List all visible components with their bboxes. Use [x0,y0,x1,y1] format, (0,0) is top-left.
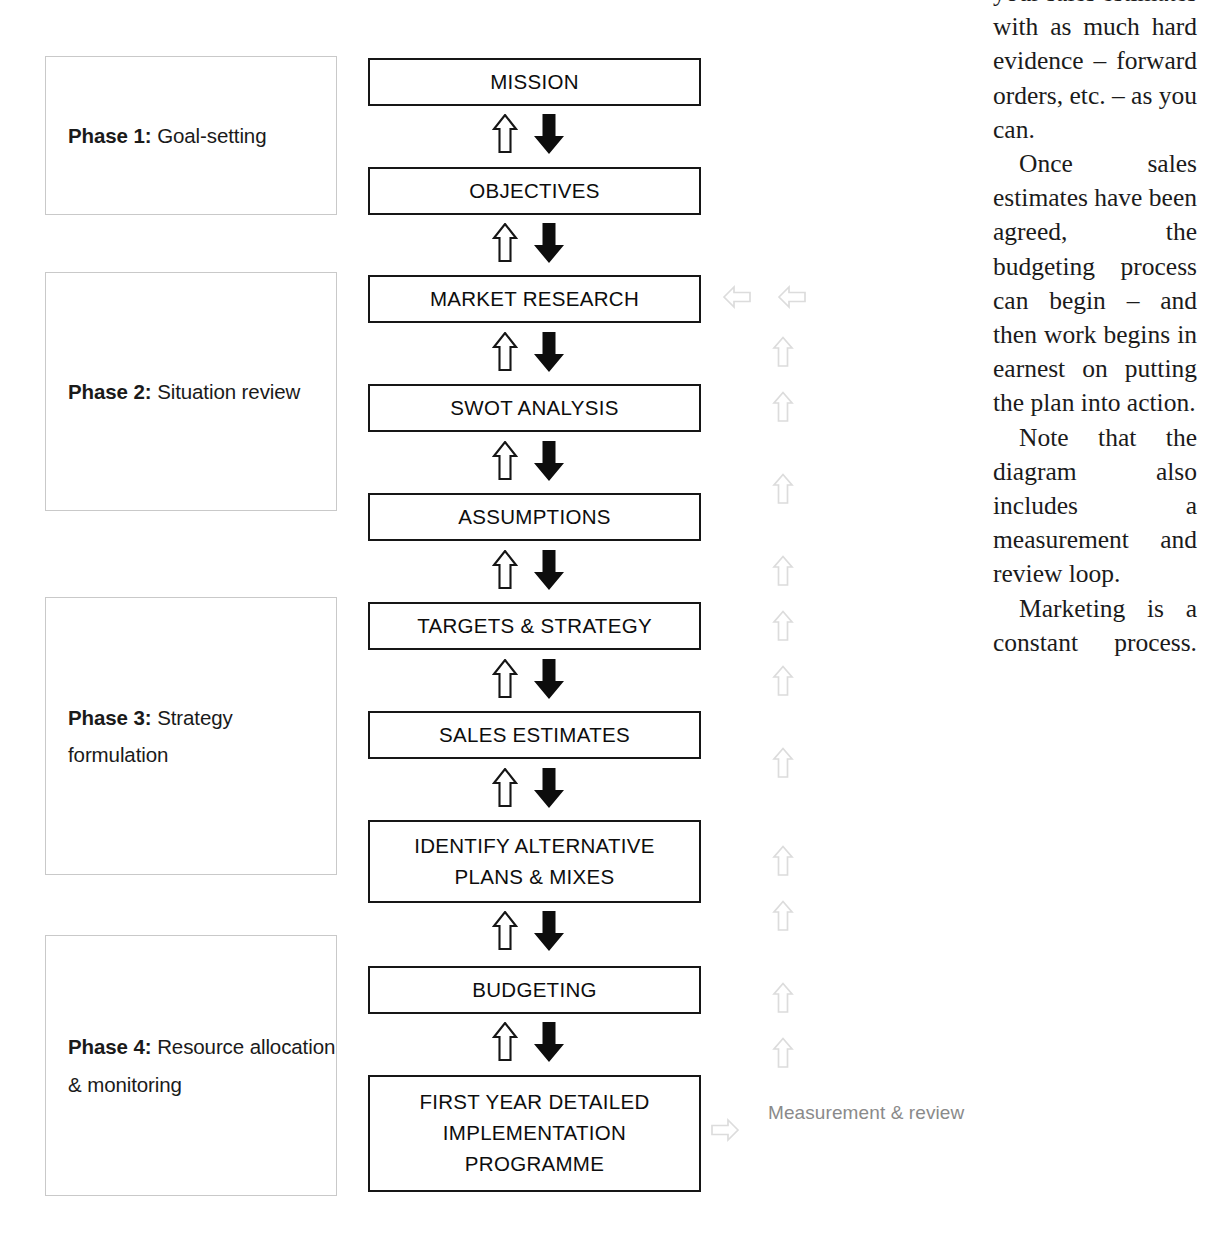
flow-step-label: IDENTIFY ALTERNATIVE PLANS & MIXES [414,831,655,893]
connector-pair [368,330,701,374]
flow-step-label: MISSION [490,67,579,98]
body-paragraph: Note that the diagram also includes a me… [993,421,1197,592]
phase-box-2: Phase 2: Situation review [45,272,337,511]
connector-pair [368,548,701,592]
arrow-left-outline-icon [777,284,807,310]
flow-step-mission: MISSION [368,58,701,106]
arrow-down-solid-icon [531,1020,567,1064]
phase-label-3: Phase 3: Strategy formulation [46,699,336,774]
arrow-up-outline-icon [492,911,518,951]
arrow-up-outline-gray-icon [772,610,794,642]
connector-pair [368,909,701,953]
body-paragraph: Marketing is a constant process. [993,592,1197,695]
flow-step-label: SWOT ANALYSIS [450,393,618,424]
arrow-down-solid-icon [531,221,567,265]
flow-step-budgeting: BUDGETING [368,966,701,1014]
phase-name-2: Situation review [152,380,301,403]
arrow-up-outline-icon [492,223,518,263]
connector-pair [368,657,701,701]
phase-box-4: Phase 4: Resource allocation & monitorin… [45,935,337,1196]
phase-number-3: Phase 3: [68,706,152,729]
arrow-down-solid-icon [531,657,567,701]
flow-step-label: ASSUMPTIONS [458,502,611,533]
arrow-left-outline-icon [722,284,752,310]
arrow-up-outline-icon [492,768,518,808]
flow-step-label: FIRST YEAR DETAILED IMPLEMENTATION PROGR… [419,1087,649,1179]
body-paragraph: your sales estimates with as much hard e… [993,0,1197,147]
arrow-up-outline-gray-icon [772,900,794,932]
arrow-down-solid-icon [531,112,567,156]
arrow-down-solid-icon [531,909,567,953]
arrow-up-outline-gray-icon [772,1037,794,1069]
arrow-up-outline-gray-icon [772,747,794,779]
connector-pair [368,439,701,483]
arrow-up-outline-gray-icon [772,665,794,697]
flow-step-label: BUDGETING [472,975,597,1006]
body-text-column: your sales estimates with as much hard e… [993,0,1197,694]
phase-number-4: Phase 4: [68,1035,152,1058]
arrow-up-outline-gray-icon [772,391,794,423]
phase-label-4: Phase 4: Resource allocation & monitorin… [46,1028,336,1103]
connector-pair [368,766,701,810]
measurement-review-caption: Measurement & review [768,1098,968,1129]
arrow-down-solid-icon [531,439,567,483]
arrow-down-solid-icon [531,330,567,374]
flow-step-label: SALES ESTIMATES [439,720,630,751]
arrow-up-outline-gray-icon [772,555,794,587]
arrow-up-outline-icon [492,659,518,699]
arrow-up-outline-icon [492,441,518,481]
phase-box-1: Phase 1: Goal-setting [45,56,337,215]
flow-step-assumptions: ASSUMPTIONS [368,493,701,541]
phase-number-2: Phase 2: [68,380,152,403]
arrow-up-outline-icon [492,1022,518,1062]
arrow-up-outline-icon [492,332,518,372]
arrow-up-outline-gray-icon [772,845,794,877]
connector-pair [368,221,701,265]
flow-step-label: TARGETS & STRATEGY [417,611,652,642]
arrow-up-outline-icon [492,550,518,590]
connector-pair [368,112,701,156]
flow-step-market-research: MARKET RESEARCH [368,275,701,323]
flow-step-swot-analysis: SWOT ANALYSIS [368,384,701,432]
arrow-up-outline-gray-icon [772,982,794,1014]
arrow-right-outline-gray-icon [710,1117,740,1143]
phase-label-2: Phase 2: Situation review [46,373,300,410]
flow-step-objectives: OBJECTIVES [368,167,701,215]
flow-step-label: OBJECTIVES [469,176,600,207]
phase-label-1: Phase 1: Goal-setting [46,117,266,154]
phase-box-3: Phase 3: Strategy formulation [45,597,337,875]
arrow-up-outline-gray-icon [772,473,794,505]
flow-step-first-year-implementation: FIRST YEAR DETAILED IMPLEMENTATION PROGR… [368,1075,701,1192]
body-paragraph: Once sales estimates have been agreed, t… [993,147,1197,421]
flow-step-label: MARKET RESEARCH [430,284,639,315]
arrow-down-solid-icon [531,548,567,592]
flow-step-targets-strategy: TARGETS & STRATEGY [368,602,701,650]
phase-name-1: Goal-setting [152,124,267,147]
connector-pair [368,1020,701,1064]
arrow-up-outline-gray-icon [772,336,794,368]
phase-number-1: Phase 1: [68,124,152,147]
flow-step-identify-alternative-plans: IDENTIFY ALTERNATIVE PLANS & MIXES [368,820,701,903]
flow-step-sales-estimates: SALES ESTIMATES [368,711,701,759]
arrow-down-solid-icon [531,766,567,810]
arrow-up-outline-icon [492,114,518,154]
